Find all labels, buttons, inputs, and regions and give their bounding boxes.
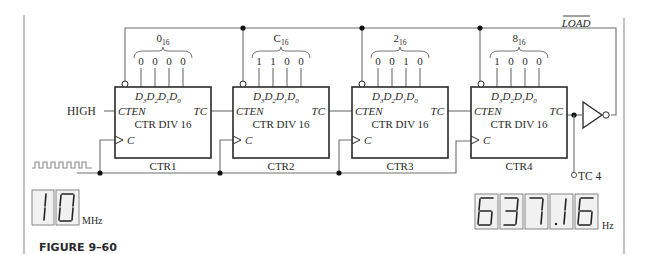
svg-text:1: 1 xyxy=(270,55,276,67)
svg-text:CTEN: CTEN xyxy=(474,105,502,117)
svg-text:0: 0 xyxy=(375,55,381,67)
svg-text:CTR DIV 16: CTR DIV 16 xyxy=(134,118,192,130)
svg-text:0: 0 xyxy=(152,55,158,67)
svg-text:TC: TC xyxy=(194,105,208,117)
svg-text:816: 816 xyxy=(513,32,526,47)
svg-text:TC: TC xyxy=(550,105,564,117)
svg-text:0: 0 xyxy=(522,55,528,67)
counter-ctr1: 016 0 0 0 0 D3D2D1D0 CTEN TC CTR DIV 16 … xyxy=(115,32,211,172)
svg-text:CTEN: CTEN xyxy=(355,105,383,117)
svg-text:0: 0 xyxy=(417,55,423,67)
ctr2-label: CTR2 xyxy=(268,160,295,172)
svg-text:1: 1 xyxy=(403,55,409,67)
counter-ctr2: C16 1 1 0 0 D3D2D1D0 CTEN TC CTR DIV 16 … xyxy=(233,32,329,172)
counter-ctr3: 216 0 0 1 0 D3D2D1D0 CTEN TC CTR DIV 16 … xyxy=(352,32,448,172)
junction-dot xyxy=(359,25,364,30)
svg-text:0: 0 xyxy=(389,55,395,67)
tc4-label: TC 4 xyxy=(578,170,602,182)
svg-text:1: 1 xyxy=(256,55,262,67)
ctr1-label: CTR1 xyxy=(150,160,177,172)
svg-text:C: C xyxy=(127,134,135,146)
clock-waveform-icon xyxy=(32,162,92,168)
svg-text:0: 0 xyxy=(284,55,290,67)
svg-text:CTEN: CTEN xyxy=(118,105,146,117)
counter-circuit-diagram: LOAD TC 4 HIGH 016 0 0 0 0 xyxy=(0,0,647,254)
svg-text:TC: TC xyxy=(312,105,326,117)
svg-text:0: 0 xyxy=(508,55,514,67)
svg-text:1: 1 xyxy=(494,55,500,67)
svg-text:TC: TC xyxy=(431,105,445,117)
svg-text:016: 016 xyxy=(157,32,170,47)
svg-text:0: 0 xyxy=(536,55,542,67)
load-label: LOAD xyxy=(561,17,591,29)
digit-box xyxy=(32,190,54,225)
svg-text:CTR DIV 16: CTR DIV 16 xyxy=(371,118,429,130)
input-frequency-display: MHz xyxy=(32,190,103,226)
svg-text:0: 0 xyxy=(166,55,172,67)
svg-text:216: 216 xyxy=(394,32,407,47)
junction-dot xyxy=(240,25,245,30)
high-label: HIGH xyxy=(67,105,96,117)
svg-text:CTR DIV 16: CTR DIV 16 xyxy=(490,118,548,130)
inverter-gate: TC 4 xyxy=(567,102,609,182)
ctr4-label: CTR4 xyxy=(506,160,533,172)
svg-text:CTEN: CTEN xyxy=(236,105,264,117)
digit-box xyxy=(550,194,573,229)
hz-unit: Hz xyxy=(602,220,614,231)
svg-text:CTR DIV 16: CTR DIV 16 xyxy=(252,118,310,130)
svg-text:0: 0 xyxy=(180,55,186,67)
svg-text:0: 0 xyxy=(298,55,304,67)
ctr3-label: CTR3 xyxy=(387,160,414,172)
svg-text:C: C xyxy=(483,134,491,146)
svg-text:C: C xyxy=(364,134,372,146)
junction-dot xyxy=(477,25,482,30)
tc4-test-point[interactable] xyxy=(571,172,576,177)
output-frequency-display: Hz xyxy=(475,194,614,231)
figure-caption: FIGURE 9–60 xyxy=(39,241,117,254)
digit-box xyxy=(525,194,548,229)
svg-text:C16: C16 xyxy=(274,32,289,47)
mhz-unit: MHz xyxy=(82,215,103,226)
svg-text:0: 0 xyxy=(138,55,144,67)
counter-ctr4: 816 1 0 0 0 D3D2D1D0 CTEN TC CTR DIV 16 … xyxy=(471,32,567,172)
svg-text:C: C xyxy=(245,134,253,146)
